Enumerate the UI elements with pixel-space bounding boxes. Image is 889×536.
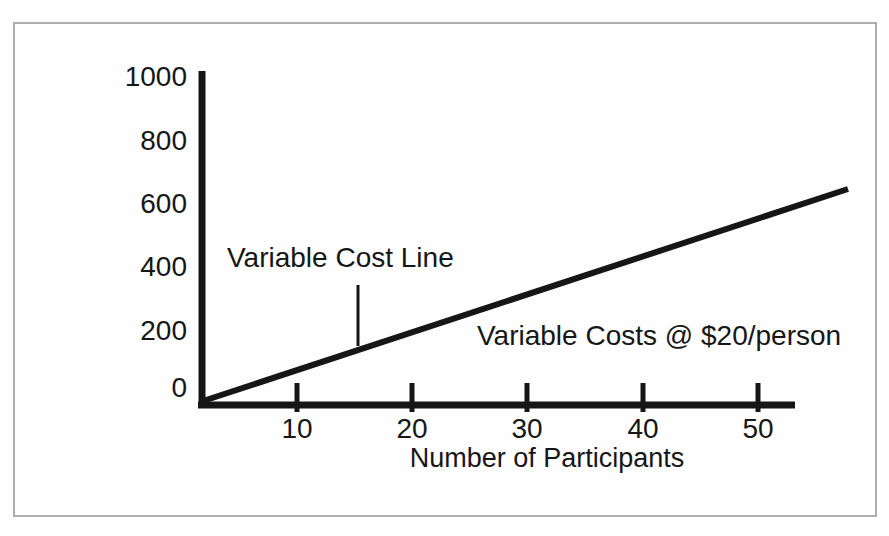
- x-axis-tick-label: 20: [367, 414, 457, 444]
- series-rate-annotation: Variable Costs @ $20/person: [477, 320, 841, 352]
- scanned-chart-page: 1000 800 600 400 200 0 10 20 30 40 50 Va…: [0, 0, 889, 536]
- y-axis-tick-label: 200: [103, 316, 187, 346]
- x-axis-tick-label: 50: [713, 414, 803, 444]
- x-axis-tick-label: 10: [252, 414, 342, 444]
- y-axis-tick-label: 1000: [103, 62, 187, 92]
- x-axis-tick-label: 40: [598, 414, 688, 444]
- y-axis-tick-label: 0: [103, 373, 187, 403]
- y-axis-tick-label: 400: [103, 252, 187, 282]
- y-axis-tick-label: 600: [103, 189, 187, 219]
- x-axis-title: Number of Participants: [347, 443, 747, 473]
- variable-cost-line: [200, 189, 848, 402]
- y-axis-tick-label: 800: [103, 126, 187, 156]
- x-axis-tick-label: 30: [482, 414, 572, 444]
- series-callout-label: Variable Cost Line: [227, 242, 454, 274]
